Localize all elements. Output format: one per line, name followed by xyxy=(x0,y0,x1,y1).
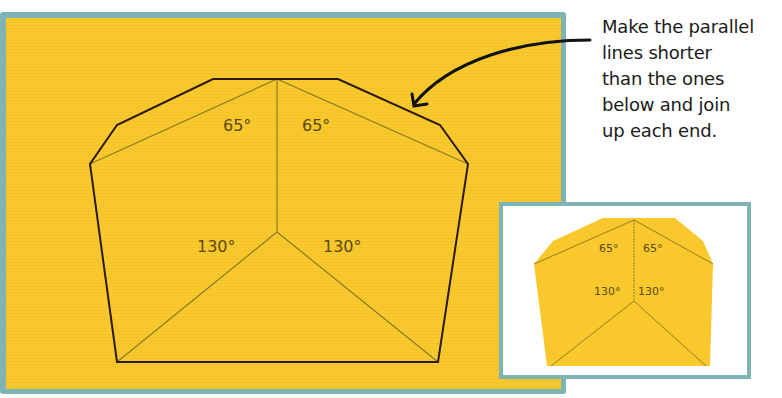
angle-label-top-right: 65° xyxy=(302,116,330,135)
inset-photo-panel: 65° 65° 130° 130° xyxy=(499,202,751,379)
inset-angle-bottom-left: 130° xyxy=(594,285,621,298)
fold-guide-lines xyxy=(90,79,468,362)
curved-arrow-icon xyxy=(412,40,590,106)
instruction-line: than the ones xyxy=(602,66,782,92)
angle-label-top-left: 65° xyxy=(223,116,251,135)
instruction-text: Make the parallel lines shorter than the… xyxy=(602,14,782,144)
instruction-line: up each end. xyxy=(602,118,782,144)
angle-label-bottom-right: 130° xyxy=(323,237,362,256)
angle-label-bottom-left: 130° xyxy=(197,237,236,256)
instruction-line: lines shorter xyxy=(602,40,782,66)
inset-angle-top-left: 65° xyxy=(599,242,619,255)
inset-folded-shape xyxy=(534,218,713,366)
instruction-line: below and join xyxy=(602,92,782,118)
inset-angle-bottom-right: 130° xyxy=(638,285,665,298)
octagon-outline xyxy=(90,79,468,362)
inset-angle-top-right: 65° xyxy=(643,242,663,255)
inset-white-background: 65° 65° 130° 130° xyxy=(503,206,747,375)
inset-shape-drawing: 65° 65° 130° 130° xyxy=(503,206,747,375)
instruction-line: Make the parallel xyxy=(602,14,782,40)
